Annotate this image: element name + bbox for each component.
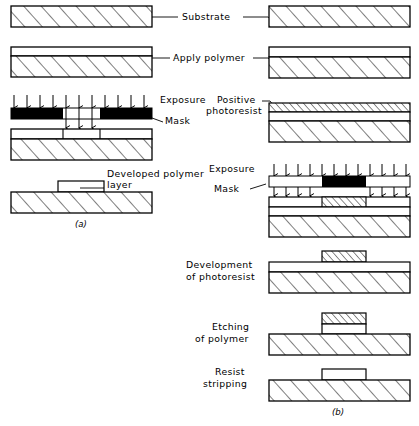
left-step-apply-polymer bbox=[11, 47, 152, 77]
right-step-apply-polymer bbox=[269, 47, 410, 78]
right-step-positive-photoresist bbox=[269, 103, 410, 142]
label-mask-right: Mask bbox=[214, 183, 240, 194]
label-positive-photoresist-line2: photoresist bbox=[206, 105, 262, 116]
mask-right bbox=[269, 176, 410, 187]
right-step-resist-stripping bbox=[269, 369, 410, 401]
label-development-line1: Development bbox=[186, 259, 252, 270]
label-exposure-right: Exposure bbox=[209, 163, 255, 174]
right-step-development-of-photoresist bbox=[269, 251, 410, 293]
transmitted-beams-right bbox=[274, 187, 406, 196]
label-positive-photoresist-line1: Positive bbox=[217, 94, 256, 105]
label-resist-line1: Resist bbox=[215, 366, 245, 377]
label-substrate: Substrate bbox=[182, 11, 230, 22]
label-mask-left: Mask bbox=[165, 115, 191, 126]
label-development-line2: of photoresist bbox=[186, 271, 255, 282]
left-step-exposure-mask bbox=[11, 95, 152, 160]
mask-left bbox=[11, 108, 152, 119]
right-step-exposure-mask bbox=[269, 164, 410, 237]
figure-canvas: (a) Substrate Apply polymer Exposure Mas… bbox=[0, 0, 419, 426]
label-developed-polymer-line2: layer bbox=[107, 179, 132, 190]
process-diagram: (a) Substrate Apply polymer Exposure Mas… bbox=[0, 0, 419, 426]
label-apply-polymer: Apply polymer bbox=[173, 52, 245, 63]
label-etching-line2: of polymer bbox=[195, 333, 249, 344]
label-etching-line1: Etching bbox=[212, 321, 249, 332]
panel-a-caption: (a) bbox=[75, 219, 87, 229]
panel-b-caption: (b) bbox=[332, 407, 344, 417]
exposure-arrows-left bbox=[14, 95, 144, 108]
label-developed-polymer-line1: Developed polymer bbox=[107, 168, 204, 179]
right-step-substrate bbox=[269, 6, 410, 27]
label-exposure-left: Exposure bbox=[160, 94, 206, 105]
left-step-substrate bbox=[11, 6, 152, 27]
right-step-etching-of-polymer bbox=[269, 313, 410, 355]
label-resist-line2: stripping bbox=[203, 378, 247, 389]
exposure-arrows-right bbox=[274, 164, 406, 176]
